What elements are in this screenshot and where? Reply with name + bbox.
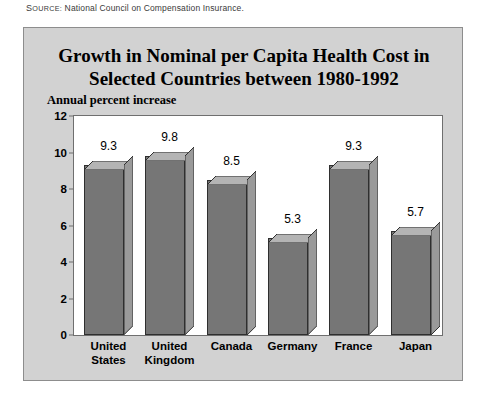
y-axis-tick-mark	[69, 298, 74, 299]
bar-front-face	[207, 180, 247, 335]
bar-front-face	[145, 156, 185, 335]
bar-value-label: 9.3	[79, 139, 139, 153]
source-note: SOURCE: National Council on Compensation…	[26, 3, 244, 13]
chart-panel: Growth in Nominal per Capita Health Cost…	[23, 27, 463, 381]
bar-front-face	[391, 231, 431, 335]
bar	[391, 222, 431, 335]
y-axis-tick-mark	[69, 335, 74, 336]
bar-value-label: 9.8	[140, 130, 200, 144]
y-axis-tick-mark	[69, 225, 74, 226]
bar-side-face	[431, 222, 440, 335]
y-axis-tick-mark	[69, 262, 74, 263]
chart-title-line-1: Growth in Nominal per Capita Health Cost…	[58, 45, 429, 66]
bar-value-label: 9.3	[324, 139, 384, 153]
plot-area: 0246810129.3UnitedStates9.8UnitedKingdom…	[73, 115, 443, 336]
y-axis-tick-label: 2	[61, 293, 67, 305]
bar-value-label: 8.5	[202, 154, 262, 168]
bar-front-face	[329, 165, 369, 335]
y-axis-tick-label: 8	[61, 183, 67, 195]
y-axis-tick-label: 6	[61, 220, 67, 232]
y-axis-tick-label: 0	[61, 329, 67, 341]
bar-front-face	[268, 238, 308, 335]
source-label-rest: OURCE:	[32, 4, 62, 13]
chart-screenshot: SOURCE: National Council on Compensation…	[0, 0, 490, 400]
bar-side-face	[247, 171, 256, 335]
source-text: National Council on Compensation Insuran…	[65, 3, 244, 13]
bar-value-label: 5.7	[386, 205, 446, 219]
bar-front-face	[84, 165, 124, 335]
bar	[145, 147, 185, 335]
bar	[84, 156, 124, 335]
bar-side-face	[185, 147, 194, 335]
bar-side-face	[369, 156, 378, 335]
x-axis-category-word: Japan	[379, 340, 453, 354]
y-axis-tick-mark	[69, 189, 74, 190]
y-axis-tick-label: 10	[54, 147, 67, 159]
bar	[207, 171, 247, 335]
chart-title: Growth in Nominal per Capita Health Cost…	[24, 44, 464, 90]
source-label: SOURCE:	[26, 4, 62, 13]
chart-title-line-2: Selected Countries between 1980-1992	[24, 67, 464, 90]
chart-subtitle: Annual percent increase	[47, 93, 176, 108]
bar-side-face	[308, 229, 317, 335]
bar	[329, 156, 369, 335]
y-axis-tick-label: 12	[54, 110, 67, 122]
y-axis-tick-label: 4	[61, 256, 67, 268]
y-axis-tick-mark	[69, 116, 74, 117]
x-axis-category-label: Japan	[379, 340, 453, 354]
bar	[268, 229, 308, 335]
bar-side-face	[124, 156, 133, 335]
x-axis-category-word: Kingdom	[133, 354, 207, 368]
y-axis-tick-mark	[69, 152, 74, 153]
bar-value-label: 5.3	[263, 212, 323, 226]
